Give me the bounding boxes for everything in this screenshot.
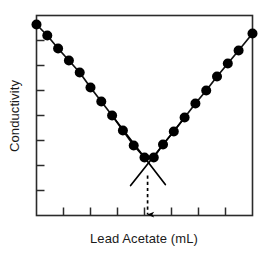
data-point-20	[234, 46, 244, 56]
y-axis-label: Conductivity	[7, 80, 22, 152]
data-point-7	[96, 97, 106, 107]
plot-border	[37, 16, 253, 216]
data-point-3	[53, 44, 63, 54]
data-point-17	[201, 86, 211, 96]
data-point-16	[190, 99, 200, 109]
plot-frame	[37, 16, 253, 216]
conductometric-titration-chart: Conductivity Lead Acetate (mL)	[0, 0, 267, 262]
data-point-19	[223, 59, 233, 69]
data-point-2	[42, 31, 52, 41]
data-point-21	[248, 29, 258, 39]
chart-figure: Conductivity Lead Acetate (mL)	[0, 0, 267, 262]
data-point-4	[64, 56, 74, 66]
data-point-6	[86, 83, 96, 93]
x-axis-label: Lead Acetate (mL)	[90, 231, 198, 246]
data-point-1	[32, 20, 42, 30]
data-point-5	[75, 68, 85, 78]
data-point-18	[212, 72, 222, 82]
